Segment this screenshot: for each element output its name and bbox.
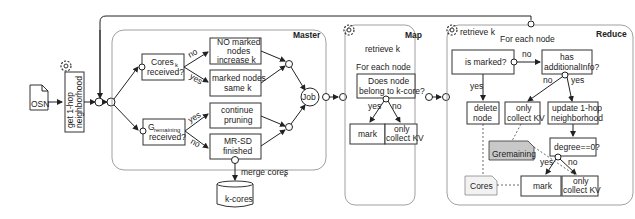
svg-text:mark: mark [358,129,378,139]
master-title: Master [293,30,321,40]
svg-text:Job: Job [302,92,316,102]
merge-node-1 [95,98,103,106]
gear-icon [447,25,457,35]
join-node-2 [286,124,293,131]
svg-text:MR-SD: MR-SD [224,136,252,146]
svg-text:k-cores: k-cores [225,194,253,204]
gear-icon [61,61,71,71]
svg-text:yes: yes [186,109,202,124]
kcores-database: k-cores [217,181,253,207]
svg-text:marked nodes: marked nodes [212,73,266,83]
svg-text:delete: delete [474,103,497,113]
get-1hop-box: get 1-hop neighborhood [65,72,84,132]
svg-text:yes: yes [470,81,483,91]
svg-text:collect KV: collect KV [386,133,424,143]
svg-text:is marked?: is marked? [465,57,507,67]
svg-text:no: no [522,49,532,59]
svg-text:update 1-hop: update 1-hop [552,103,602,113]
svg-text:collect KV: collect KV [507,113,545,123]
svg-text:mark: mark [533,181,553,191]
svg-text:no: no [543,75,553,85]
svg-text:For each node: For each node [356,62,411,72]
svg-text:Gremaining: Gremaining [492,149,536,159]
svg-text:retrieve k: retrieve k [460,27,496,37]
map-title: Map [405,30,422,40]
svg-text:received?: received? [149,132,186,142]
mapreduce-kcore-diagram: OSN get 1-hop neighborhood Master Cores … [0,0,635,219]
osn-document: OSN [30,85,49,110]
svg-text:pruning: pruning [224,115,253,125]
svg-text:yes: yes [571,75,584,85]
svg-text:degree==0?: degree==0? [554,142,600,152]
svg-text:node: node [473,113,492,123]
svg-text:collect KV: collect KV [563,185,601,195]
svg-text:yes: yes [368,101,381,111]
osn-label: OSN [31,99,49,109]
gremaining-document: Gremaining [489,141,536,160]
svg-text:For each node: For each node [500,34,555,44]
svg-text:received?: received? [147,67,184,77]
reduce-title: Reduce [596,29,627,39]
join-node-1 [286,61,293,68]
svg-text:Cores: Cores [151,57,174,67]
svg-text:same k: same k [224,83,252,93]
svg-text:Does node: Does node [368,76,409,86]
svg-text:Cores: Cores [470,181,493,191]
svg-text:no: no [186,46,199,60]
cores-document: Cores [465,176,497,195]
svg-text:no: no [568,157,578,167]
svg-text:retrieve k: retrieve k [365,44,401,54]
svg-text:no: no [189,136,202,150]
svg-text:increase k: increase k [217,55,256,65]
svg-text:neighborhood: neighborhood [551,113,603,123]
svg-text:continue: continue [221,105,253,115]
svg-text:has: has [560,52,574,62]
svg-text:neighborhood: neighborhood [74,76,84,128]
svg-text:no: no [392,101,402,111]
svg-text:additionalInfo?: additionalInfo? [544,62,600,72]
svg-text:yes: yes [188,71,204,86]
svg-text:only: only [516,103,532,113]
svg-text:belong to k-core?: belong to k-core? [359,86,425,96]
svg-text:finished: finished [223,146,253,156]
split-node [107,98,115,106]
svg-text:merge cores: merge cores [241,167,288,177]
